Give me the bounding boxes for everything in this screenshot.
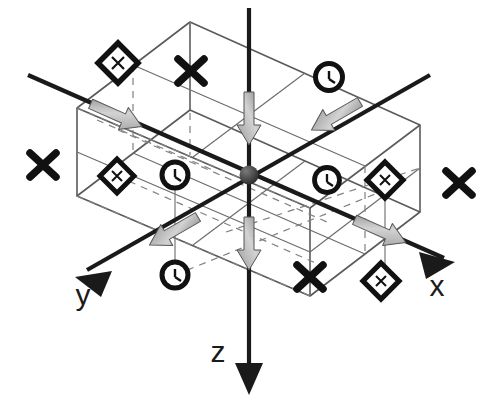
axis-x-label: x	[430, 269, 445, 302]
axis-z-arrowhead	[235, 363, 263, 395]
axes-group	[28, 8, 455, 395]
gray-arrow-x-positive	[350, 209, 411, 254]
marker-circle-mid-right	[315, 168, 340, 193]
axis-z	[235, 8, 263, 395]
gray-arrow-z-upper	[237, 92, 261, 145]
marker-cross-left-edge	[30, 153, 56, 177]
gray-arrow-z-lower	[237, 217, 261, 270]
axis-y-label: y	[76, 278, 91, 311]
marker-circle-mid-left	[162, 162, 188, 188]
coordinate-system-diagram: x y z	[0, 0, 495, 401]
marker-cross-right-edge	[446, 171, 472, 195]
marker-diamond-mid-right	[367, 162, 403, 198]
marker-circle-bottom-left	[162, 262, 188, 288]
marker-cross-top-mid	[178, 59, 204, 83]
figure-canvas: x y z	[0, 0, 495, 401]
axis-z-label: z	[211, 335, 226, 368]
origin-point	[240, 166, 259, 185]
marker-circle-top-right	[316, 64, 343, 91]
marker-diamond-bottom-right	[363, 263, 399, 299]
marker-diamond-top-left	[98, 43, 138, 83]
dash-mid-diag-c	[118, 130, 327, 222]
dash-mid-diag-a	[117, 176, 327, 268]
